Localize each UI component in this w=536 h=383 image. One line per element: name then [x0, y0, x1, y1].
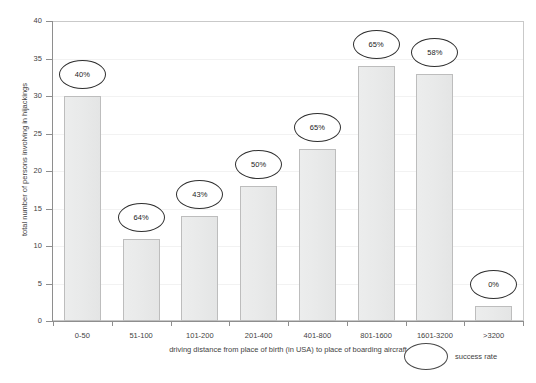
y-axis-title: total number of persons involving in hij… [20, 60, 29, 260]
x-axis-tick [288, 321, 289, 326]
y-axis-tick-label: 0 [2, 317, 42, 325]
bar-slot [123, 21, 160, 321]
legend-label: success rate [455, 352, 497, 361]
x-axis-tick-label: >3200 [464, 331, 523, 340]
bar[interactable] [123, 239, 160, 322]
x-axis-tick [347, 321, 348, 326]
bar[interactable] [475, 306, 512, 321]
x-axis-tick-label: 201-400 [229, 331, 288, 340]
x-axis-tick [464, 321, 465, 326]
y-axis-tick [46, 209, 52, 210]
y-axis-tick [46, 171, 52, 172]
x-axis-tick [53, 321, 54, 326]
y-axis-tick-label: 40 [2, 17, 42, 25]
bar[interactable] [240, 186, 277, 321]
bars-layer [53, 21, 523, 321]
x-axis-tick-label: 101-200 [171, 331, 230, 340]
x-axis-tick-label: 401-800 [288, 331, 347, 340]
bar[interactable] [358, 66, 395, 321]
success-rate-callout: 50% [235, 150, 282, 179]
x-axis-tick [229, 321, 230, 326]
success-rate-callout: 64% [118, 203, 165, 232]
bar[interactable] [416, 74, 453, 322]
y-axis-tick [46, 134, 52, 135]
x-axis-tick-label: 51-100 [112, 331, 171, 340]
y-axis-tick [46, 59, 52, 60]
x-axis-tick [523, 321, 524, 326]
bar-slot [358, 21, 395, 321]
y-axis-tick [46, 284, 52, 285]
x-axis-tick-label: 801-1600 [347, 331, 406, 340]
x-axis-tick [406, 321, 407, 326]
x-axis-tick-label: 1601-3200 [406, 331, 465, 340]
y-axis-tick [46, 21, 52, 22]
success-rate-callout: 65% [353, 30, 400, 59]
y-axis-tick-label: 5 [2, 280, 42, 288]
bar-slot [181, 21, 218, 321]
bar[interactable] [64, 96, 101, 321]
bar-chart: 0510152025303540 total number of persons… [0, 0, 536, 383]
x-axis-tick [112, 321, 113, 326]
y-axis-tick [46, 96, 52, 97]
bar[interactable] [181, 216, 218, 321]
success-rate-callout: 58% [411, 38, 458, 67]
x-axis-tick-label: 0-50 [53, 331, 112, 340]
success-rate-callout: 65% [294, 113, 341, 142]
success-rate-callout: 40% [59, 60, 106, 89]
bar-slot [299, 21, 336, 321]
legend: success rate [404, 343, 497, 370]
success-rate-callout: 0% [470, 270, 517, 299]
legend-oval-marker [404, 343, 448, 370]
bar[interactable] [299, 149, 336, 322]
y-axis-tick [46, 246, 52, 247]
x-axis-tick [171, 321, 172, 326]
